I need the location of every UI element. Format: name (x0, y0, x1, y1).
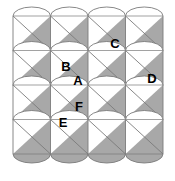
tile-cell (51, 111, 89, 164)
region-label-c: C (110, 36, 120, 51)
region-label-e: E (59, 115, 68, 130)
region-label-d: D (147, 71, 156, 86)
tile-cell (13, 111, 51, 164)
tile-cell (126, 111, 164, 164)
tile-cell (88, 111, 126, 164)
region-label-b: B (61, 59, 70, 74)
region-label-a: A (73, 73, 83, 88)
region-label-f: F (75, 99, 83, 114)
tessellation-canvas: ABCDEF (0, 0, 175, 181)
tessellation-figure: ABCDEF (0, 0, 175, 181)
tiles-layer (13, 7, 163, 163)
